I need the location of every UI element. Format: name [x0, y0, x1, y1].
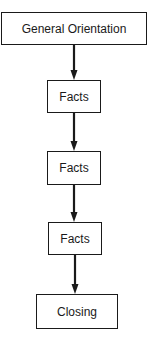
node-label: Facts	[59, 91, 88, 103]
node-label: Facts	[60, 233, 89, 245]
node-label: Closing	[57, 306, 97, 318]
arrowhead-icon	[71, 212, 78, 222]
node-label: General Orientation	[22, 23, 127, 35]
node-label: Facts	[59, 162, 88, 174]
arrow-general-orientation-to-facts-1	[71, 45, 78, 80]
arrow-facts-2-to-facts-3	[71, 185, 78, 222]
arrow-facts-1-to-facts-2	[71, 113, 78, 151]
node-facts-1: Facts	[47, 80, 101, 113]
node-general-orientation: General Orientation	[1, 12, 147, 45]
arrowhead-icon	[71, 141, 78, 151]
node-facts-2: Facts	[47, 151, 101, 185]
arrowhead-icon	[72, 284, 79, 294]
arrowhead-icon	[71, 70, 78, 80]
arrow-facts-3-to-closing	[72, 255, 79, 294]
node-facts-3: Facts	[48, 222, 102, 255]
node-closing: Closing	[36, 294, 118, 329]
